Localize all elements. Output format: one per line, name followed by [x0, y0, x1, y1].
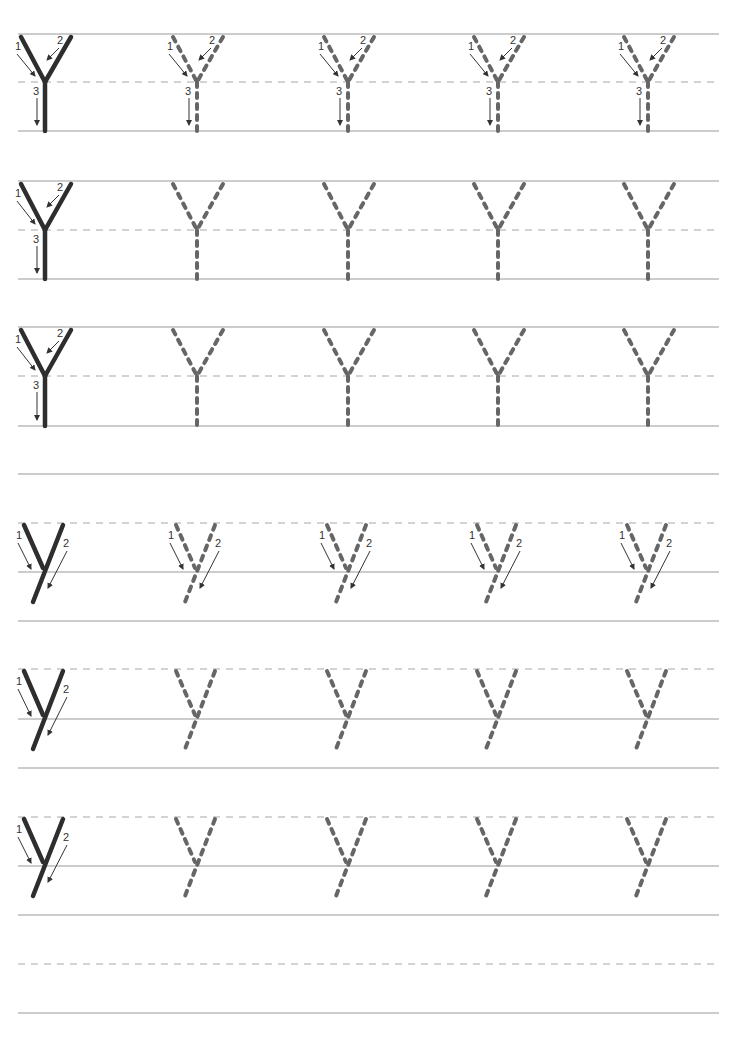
stroke-number-label: 3	[33, 85, 39, 97]
stroke-number-label: 1	[168, 529, 174, 541]
stroke-number-label: 2	[63, 537, 69, 549]
stroke-number-label: 2	[660, 34, 666, 46]
trace-letter-Y[interactable]	[324, 330, 374, 426]
trace-letter-y[interactable]	[477, 671, 516, 749]
stroke-number-label: 1	[619, 529, 625, 541]
trace-letter-Y[interactable]	[624, 330, 674, 426]
stroke-number-label: 3	[185, 85, 191, 97]
trace-letter-Y[interactable]	[173, 184, 223, 279]
stroke-number-label: 2	[57, 327, 63, 339]
stroke-number-label: 1	[16, 529, 22, 541]
trace-letter-y[interactable]	[327, 671, 366, 749]
stroke-direction-arrow-icon	[18, 837, 31, 863]
trace-letter-y[interactable]	[627, 671, 666, 749]
stroke-number-label: 1	[15, 187, 21, 199]
trace-letter-y[interactable]	[176, 819, 215, 896]
stroke-number-label: 2	[510, 34, 516, 46]
stroke-number-label: 3	[486, 85, 492, 97]
trace-letter-y[interactable]: 12	[319, 525, 372, 602]
stroke-number-label: 3	[33, 233, 39, 245]
stroke-number-label: 1	[319, 529, 325, 541]
stroke-number-label: 2	[666, 537, 672, 549]
trace-letter-y[interactable]	[327, 819, 366, 896]
stroke-number-label: 1	[16, 675, 22, 687]
worksheet-canvas: 12312312312312312312312121212121212	[0, 0, 756, 1056]
trace-letter-Y[interactable]	[474, 184, 524, 279]
stroke-number-label: 2	[215, 537, 221, 549]
stroke-number-label: 1	[469, 529, 475, 541]
trace-letter-Y[interactable]: 123	[318, 34, 374, 131]
trace-letter-y[interactable]: 12	[469, 525, 522, 602]
model-letter-y: 12	[16, 525, 69, 602]
trace-letter-y[interactable]: 12	[619, 525, 672, 602]
trace-letter-y[interactable]	[176, 671, 215, 749]
handwriting-worksheet: 12312312312312312312312121212121212	[0, 0, 756, 1056]
letter-practice: 12312312312312312312312121212121212	[15, 34, 674, 896]
trace-letter-y[interactable]	[627, 819, 666, 896]
stroke-direction-arrow-icon	[18, 689, 31, 716]
stroke-number-label: 1	[16, 823, 22, 835]
ruled-lines	[18, 34, 719, 1013]
stroke-number-label: 2	[209, 34, 215, 46]
stroke-direction-arrow-icon	[471, 543, 484, 569]
stroke-number-label: 3	[636, 85, 642, 97]
model-letter-y: 12	[16, 671, 69, 749]
stroke-direction-arrow-icon	[321, 543, 334, 569]
stroke-number-label: 1	[15, 40, 21, 52]
trace-letter-Y[interactable]	[324, 184, 374, 279]
trace-letter-Y[interactable]: 123	[618, 34, 674, 131]
trace-letter-Y[interactable]	[624, 184, 674, 279]
trace-letter-y[interactable]: 12	[168, 525, 221, 602]
trace-letter-Y[interactable]	[173, 330, 223, 426]
trace-letter-y[interactable]	[477, 819, 516, 896]
stroke-number-label: 2	[516, 537, 522, 549]
stroke-number-label: 1	[318, 40, 324, 52]
stroke-number-label: 2	[360, 34, 366, 46]
stroke-number-label: 2	[63, 683, 69, 695]
stroke-number-label: 2	[63, 831, 69, 843]
stroke-number-label: 3	[33, 379, 39, 391]
trace-letter-Y[interactable]	[474, 330, 524, 426]
model-letter-y: 12	[16, 819, 69, 896]
stroke-direction-arrow-icon	[170, 543, 183, 569]
stroke-number-label: 1	[468, 40, 474, 52]
stroke-number-label: 1	[618, 40, 624, 52]
stroke-number-label: 2	[57, 181, 63, 193]
stroke-number-label: 3	[336, 85, 342, 97]
stroke-number-label: 2	[366, 537, 372, 549]
stroke-number-label: 2	[57, 34, 63, 46]
stroke-number-label: 1	[167, 40, 173, 52]
stroke-direction-arrow-icon	[621, 543, 634, 569]
stroke-number-label: 1	[15, 333, 21, 345]
stroke-direction-arrow-icon	[18, 543, 31, 569]
